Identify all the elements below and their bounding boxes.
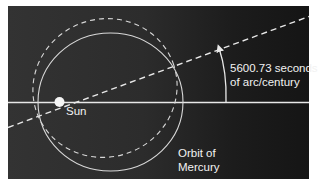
orbit-label: Orbit of Mercury (178, 146, 220, 174)
sun-label: Sun (66, 104, 86, 118)
sun-icon (55, 97, 65, 107)
angle-arrow (219, 48, 226, 102)
orbit-label-line1: Orbit of (178, 146, 220, 160)
orbit-precessed-ellipse (13, 0, 196, 178)
diagram-graphics (0, 0, 321, 190)
precession-angle-line2: of arc/century (230, 75, 318, 89)
precession-angle-line1: 5600.73 seconds (230, 61, 318, 75)
orbit-label-line2: Mercury (178, 160, 220, 174)
precession-angle-label: 5600.73 seconds of arc/century (230, 61, 318, 89)
